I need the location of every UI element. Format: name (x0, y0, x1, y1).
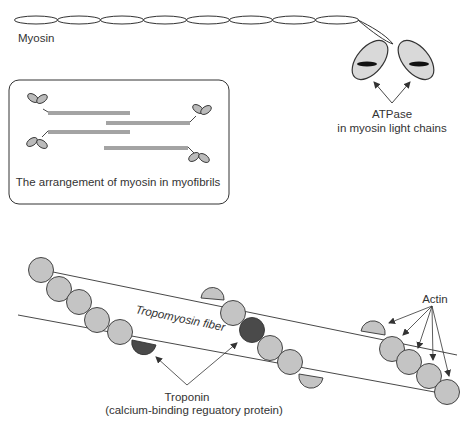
actin-label: Actin (422, 293, 448, 305)
atpase-label: ATPase (372, 108, 412, 120)
troponin-label: Troponin (165, 391, 210, 403)
tropomyosin-label: Tropomyosin fiber (135, 303, 228, 333)
troponin-sublabel: (calcium-binding reguatory protein) (105, 404, 283, 416)
atpase-sublabel: in myosin light chains (337, 122, 447, 134)
troponin-arrows (156, 343, 237, 385)
atpase-mark-left (357, 62, 377, 67)
muscle-protein-diagram: Myosin ATPase in myosin light chains The… (0, 0, 471, 428)
myosin-label: Myosin (18, 32, 54, 44)
myosin-tail (15, 16, 394, 44)
arrangement-caption: The arrangement of myosin in myofibrils (16, 176, 221, 188)
atpase-arrows (374, 82, 410, 103)
myosin-heads (345, 34, 440, 86)
atpase-mark-right (409, 62, 429, 67)
